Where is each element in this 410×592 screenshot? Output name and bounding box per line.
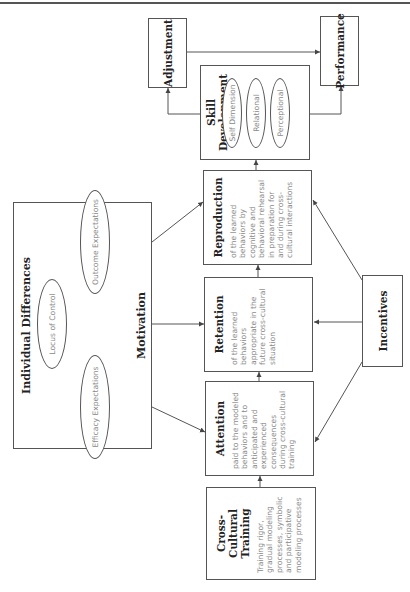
adjustment-title: Adjustment (162, 19, 174, 87)
relational-ellipse: Relational (246, 78, 266, 148)
attention-description: paid to the modeled behaviors and to ant… (231, 388, 297, 469)
self-dimension-ellipse: Self Dimension (222, 78, 242, 148)
incentives-title: Incentives (377, 291, 389, 352)
performance-title: Performance (334, 13, 346, 89)
outcome-expectations-ellipse: Outcome Expectations (80, 190, 110, 294)
motivation-label: Motivation (136, 203, 148, 448)
outcome-expectations-label: Outcome Expectations (91, 199, 100, 285)
reproduction-title: Reproduction (212, 177, 224, 258)
performance-box: Performance (320, 16, 359, 86)
reproduction-box: Reproduction of the learned behaviors by… (203, 170, 312, 265)
cross-cultural-training-box: Cross-Cultural Training Training rigor, … (206, 487, 316, 580)
locus-of-control-ellipse: Locus of Control (37, 279, 67, 369)
cross-cultural-training-title: Cross-Cultural Training (215, 494, 251, 573)
retention-description: of the learned behaviors appropriate in … (230, 284, 277, 365)
attention-title: Attention (214, 388, 226, 469)
incentives-box: Incentives (362, 275, 403, 367)
efficacy-expectations-label: Efficacy Expectations (91, 366, 100, 447)
diagram-stage: Individual Differences Motivation Locus … (0, 0, 410, 592)
relational-label: Relational (252, 94, 261, 132)
retention-box: Retention of the learned behaviors appro… (204, 277, 313, 372)
perceptional-label: Perceptional (276, 90, 285, 137)
adjustment-box: Adjustment (148, 18, 187, 88)
attention-box: Attention paid to the modeled behaviors … (205, 381, 314, 476)
individual-differences-title: Individual Differences (21, 203, 33, 448)
retention-title: Retention (213, 284, 225, 365)
perceptional-ellipse: Perceptional (270, 78, 290, 148)
self-dimension-label: Self Dimension (228, 84, 237, 141)
cross-cultural-training-description: Training rigor, gradual modeling process… (256, 494, 303, 573)
locus-of-control-label: Locus of Control (48, 293, 57, 354)
reproduction-description: of the learned behaviors by cognitive an… (229, 177, 295, 258)
efficacy-expectations-ellipse: Efficacy Expectations (80, 355, 110, 459)
